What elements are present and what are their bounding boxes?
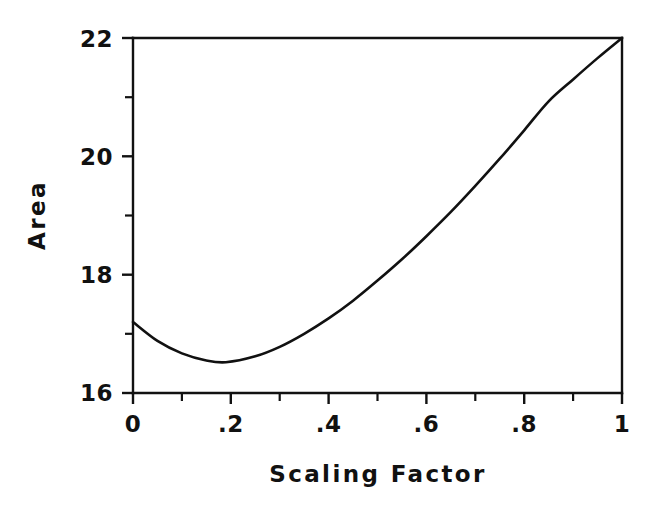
y-axis-title: Area [24, 180, 50, 250]
y-tick-label-16: 16 [80, 380, 113, 406]
y-tick-label-18: 18 [80, 262, 113, 288]
data-series-line [133, 38, 622, 362]
line-chart: 16 18 20 22 0 .2 .4 .6 .8 1 Area Scaling… [0, 0, 652, 511]
x-tick-label-1: 1 [614, 411, 631, 437]
x-tick-label-0.2: .2 [218, 411, 244, 437]
y-tick-label-20: 20 [80, 144, 113, 170]
y-tick-label-22: 22 [80, 26, 113, 52]
x-tick-label-0: 0 [125, 411, 142, 437]
x-axis-title: Scaling Factor [269, 461, 487, 487]
x-tick-label-0.6: .6 [414, 411, 440, 437]
x-tick-label-0.4: .4 [316, 411, 342, 437]
x-tick-label-0.8: .8 [511, 411, 537, 437]
chart-figure: 16 18 20 22 0 .2 .4 .6 .8 1 Area Scaling… [0, 0, 652, 511]
